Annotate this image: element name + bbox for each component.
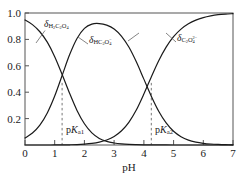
y-axis-label-0.6: 0.6 <box>0 60 21 71</box>
x-axis-label-2: 2 <box>82 148 88 159</box>
curve-delta-c2o4-2minus <box>25 14 233 145</box>
x-axis-label-6: 6 <box>201 148 207 159</box>
series3-formula: C2O2−4 <box>181 36 197 43</box>
y-axis-label-0.2: 0.2 <box>0 113 21 124</box>
leader-line-series2-left <box>78 37 88 44</box>
series-label-h2c2o4: δH2C2O4 <box>44 20 69 31</box>
pka2-k: K <box>160 124 167 135</box>
pka1-sub: a1 <box>78 128 84 135</box>
distribution-diagram-figure: 1.0 0.8 0.6 0.4 0.2 0 1 2 3 4 5 6 7 pH δ… <box>0 0 245 177</box>
x-axis-title: pH <box>122 161 135 173</box>
x-axis-label-5: 5 <box>171 148 177 159</box>
leader-line-series2-right <box>128 33 139 41</box>
x-axis-label-3: 3 <box>111 148 117 159</box>
x-axis-label-1: 1 <box>52 148 58 159</box>
plot-frame <box>25 13 233 145</box>
pka1-k: K <box>71 124 78 135</box>
curve-delta-hc2o4-minus <box>25 23 233 144</box>
x-axis-label-7: 7 <box>230 148 236 159</box>
curve-delta-h2c2o4 <box>25 20 233 145</box>
pka2-sub: a2 <box>167 128 173 135</box>
series-label-hc2o4-minus: δHC2O−4 <box>89 36 112 47</box>
frame-border <box>25 13 233 145</box>
y-axis-label-0.8: 0.8 <box>0 34 21 45</box>
series-label-c2o4-2minus: δC2O2−4 <box>177 34 197 45</box>
annotation-pka1: pKa1 <box>66 125 84 136</box>
series1-formula: H2C2O4 <box>48 22 68 29</box>
series-curves <box>25 14 233 145</box>
y-axis-label-0.4: 0.4 <box>0 87 21 98</box>
series2-formula: HC2O−4 <box>93 38 111 45</box>
plot-canvas <box>0 0 245 177</box>
y-axis-label-1.0: 1.0 <box>0 8 21 19</box>
annotation-pka2: pKa2 <box>155 125 173 136</box>
x-axis-label-0: 0 <box>22 148 28 159</box>
y-axis-ticks <box>25 13 29 119</box>
x-axis-label-4: 4 <box>141 148 147 159</box>
